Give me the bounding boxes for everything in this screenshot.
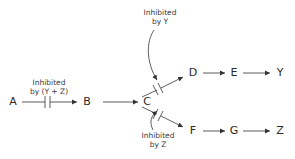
label-line1: Inhibited xyxy=(30,78,68,87)
label-line2: by (Y + Z) xyxy=(30,87,68,96)
feedback-arrow-y xyxy=(148,30,157,80)
node-f: F xyxy=(190,125,196,137)
node-d: D xyxy=(189,67,197,79)
node-a: A xyxy=(9,96,17,108)
block-bar-icon xyxy=(158,111,163,121)
label-line2: by Y xyxy=(144,17,177,26)
arrow-c-f xyxy=(142,107,183,127)
arrow-a-b xyxy=(22,96,77,108)
label-line1: Inhibited xyxy=(142,131,175,140)
label-inhibited-z: Inhibited by Z xyxy=(142,131,175,149)
node-y: Y xyxy=(277,67,284,79)
block-bar-icon xyxy=(158,83,163,93)
arrow-c-d xyxy=(142,77,183,97)
label-inhibited-ab: Inhibited by (Y + Z) xyxy=(30,78,68,96)
node-e: E xyxy=(231,67,238,79)
label-line2: by Z xyxy=(142,140,175,149)
label-inhibited-y: Inhibited by Y xyxy=(144,8,177,26)
label-line1: Inhibited xyxy=(144,8,177,17)
node-c: C xyxy=(143,96,151,108)
node-z: Z xyxy=(276,125,284,137)
node-b: B xyxy=(83,96,91,108)
block-bar-icon xyxy=(153,85,158,95)
node-g: G xyxy=(230,125,239,137)
